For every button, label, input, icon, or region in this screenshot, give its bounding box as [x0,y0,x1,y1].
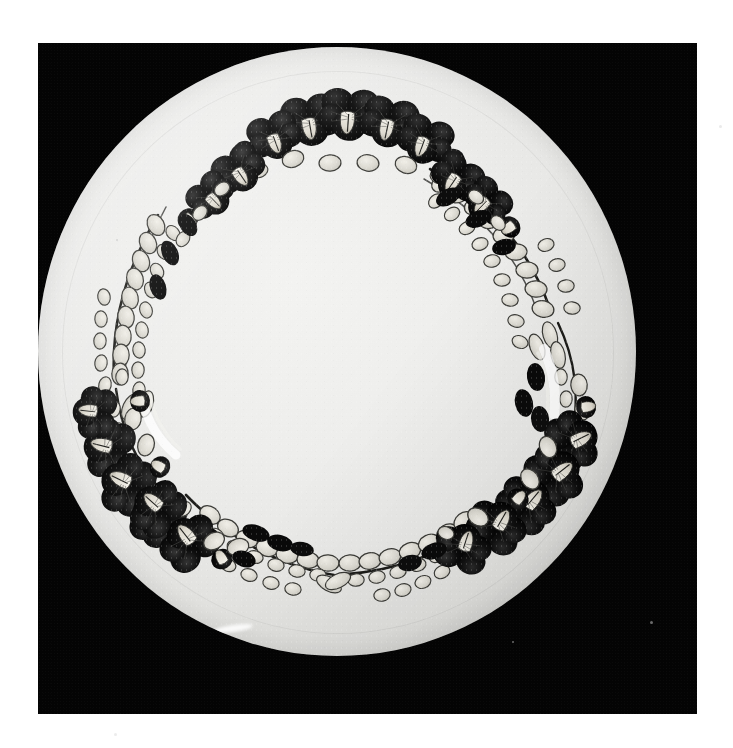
page-speck [719,125,722,128]
porcelain-plate [38,47,636,656]
film-speck [650,621,653,624]
plate-rim-groove [62,71,614,633]
photograph [38,43,697,714]
page-speck [114,733,117,736]
film-speck [512,641,514,643]
film-speck [116,239,118,241]
page-canvas [0,0,733,748]
